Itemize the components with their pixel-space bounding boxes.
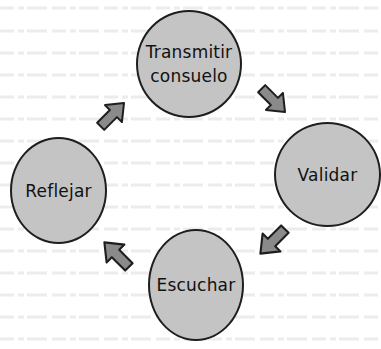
node-label-line2: consuelo <box>146 64 233 88</box>
arrow-down-left-icon <box>252 220 294 262</box>
node-label: Reflejar <box>25 179 91 203</box>
node-reflejar: Reflejar <box>10 137 107 244</box>
arrow-up-left-icon <box>96 234 138 276</box>
node-label-line1: Transmitir <box>146 40 233 64</box>
arrow-down-right-icon <box>253 79 293 121</box>
node-validar: Validar <box>274 122 381 227</box>
node-label: Escuchar <box>157 273 236 297</box>
node-label: Validar <box>298 163 358 187</box>
arrow-up-right-icon <box>92 94 132 136</box>
node-transmitir-consuelo: Transmitir consuelo <box>136 10 242 118</box>
node-escuchar: Escuchar <box>148 229 244 341</box>
node-label: Transmitir consuelo <box>146 40 233 88</box>
cycle-diagram: Transmitir consuelo Validar Escuchar Ref… <box>0 0 381 349</box>
